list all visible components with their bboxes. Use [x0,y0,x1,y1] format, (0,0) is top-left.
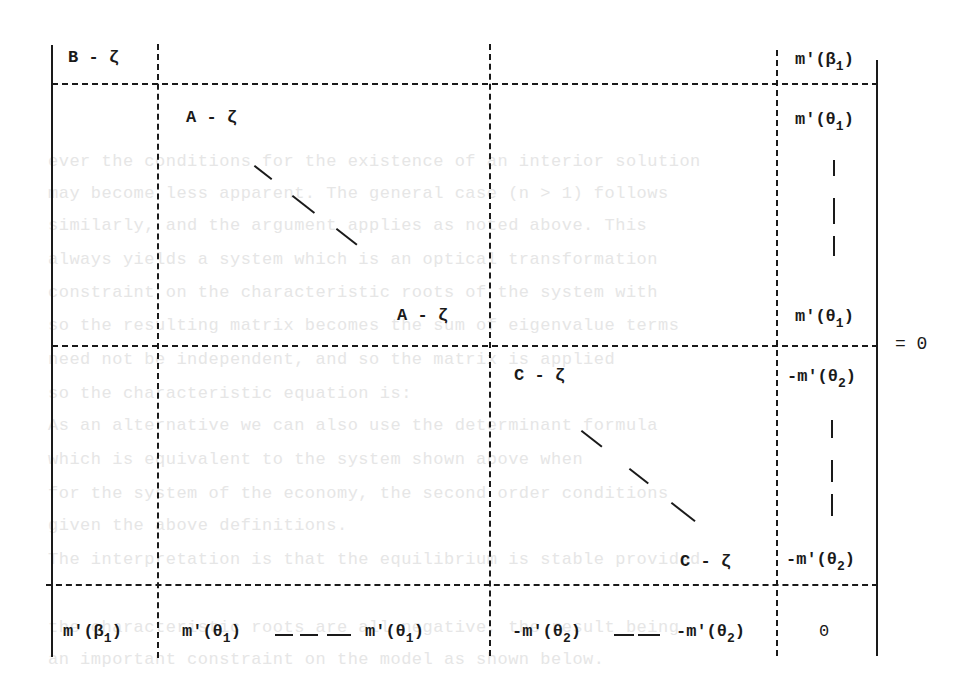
partition-horizontal-1 [52,83,878,85]
block-m-prime-beta1-top: m'(β1) [795,50,854,74]
vertical-ellipsis-dash [831,460,833,482]
block-neg-m-prime-theta2-row-left: -m'(θ2) [512,622,581,646]
vertical-ellipsis-dash [833,198,835,224]
determinant-right-bar [876,60,878,656]
block-m-prime-beta1-bottom: m'(β1) [63,622,122,646]
determinant-left-bar [51,45,53,657]
ghost-line: an important constraint on the model as … [48,650,976,669]
diagonal-ellipsis-dash [629,468,649,484]
horizontal-ellipsis-dash [275,634,293,636]
partition-horizontal-2 [52,345,878,347]
block-neg-m-prime-theta2-bottom: -m'(θ2) [786,550,855,574]
block-m-prime-theta1-top: m'(θ1) [795,110,854,134]
block-neg-m-prime-theta2-row-right: -m'(θ2) [676,622,745,646]
block-c-minus-zeta-bottom: C - ζ [680,552,731,571]
block-zero: 0 [819,622,829,641]
partition-vertical-3 [776,50,778,656]
partition-horizontal-3 [46,584,878,586]
block-a-minus-zeta-top: A - ζ [186,108,237,127]
ghost-line: As an alternative we can also use the de… [48,416,976,435]
block-b-minus-zeta: B - ζ [68,48,119,67]
block-m-prime-theta1-row-left: m'(θ1) [182,622,241,646]
vertical-ellipsis-dash [831,420,833,438]
horizontal-ellipsis-dash [300,634,318,636]
block-a-minus-zeta-bottom: A - ζ [397,306,448,325]
horizontal-ellipsis-dash [614,634,634,636]
ghost-line: may become less apparent. The general ca… [48,184,976,203]
ghost-line: ever the conditions for the existence of… [48,152,976,171]
equals-zero: = 0 [895,334,927,354]
block-c-minus-zeta-top: C - ζ [514,366,565,385]
ghost-line: given the above definitions. [48,516,976,535]
block-neg-m-prime-theta2-top: -m'(θ2) [787,367,856,391]
ghost-line: for the system of the economy, the secon… [48,484,976,503]
ghost-line: always yields a system which is an optic… [48,250,976,269]
vertical-ellipsis-dash [831,494,833,516]
block-m-prime-theta1-row-right: m'(θ1) [365,622,424,646]
partition-vertical-2 [489,44,491,656]
vertical-ellipsis-dash [833,236,835,256]
ghost-line: similarly, and the argument applies as n… [48,216,976,235]
vertical-ellipsis-dash [833,160,835,176]
horizontal-ellipsis-dash [638,634,660,636]
horizontal-ellipsis-dash [327,634,351,636]
ghost-line: constraint on the characteristic roots o… [48,283,976,302]
partition-vertical-1 [157,44,159,658]
block-m-prime-theta1-bottom: m'(θ1) [795,307,854,331]
ghost-line: which is equivalent to the system shown … [48,450,976,469]
